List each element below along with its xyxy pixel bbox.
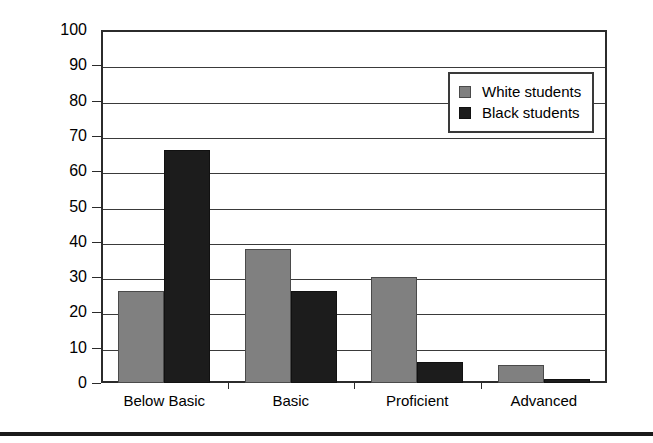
legend: White students Black students [448, 72, 594, 133]
y-axis-tick-label: 100 [60, 22, 87, 38]
legend-item: White students [459, 81, 581, 102]
y-axis-tick-label: 10 [69, 340, 87, 356]
bar-black-series-0 [164, 150, 210, 383]
legend-item-label: White students [482, 84, 581, 100]
y-axis: 0102030405060708090100 [0, 0, 101, 443]
x-axis-tick-label: Advanced [510, 392, 577, 410]
y-axis-tick-label: 70 [69, 128, 87, 144]
bar-white-series-1 [245, 249, 291, 383]
x-axis-tick-mark [354, 383, 355, 389]
y-axis-tick-mark [92, 277, 101, 278]
white-series-swatch-icon [459, 86, 471, 98]
y-axis-tick-mark [92, 242, 101, 243]
y-axis-tick-mark [92, 207, 101, 208]
bar-white-series-2 [371, 277, 417, 383]
bar-black-series-2 [417, 362, 463, 383]
y-axis-tick-mark [92, 383, 101, 384]
y-axis-tick-label: 80 [69, 93, 87, 109]
y-axis-tick-mark [92, 101, 101, 102]
y-axis-tick-mark [92, 348, 101, 349]
y-axis-tick-mark [92, 136, 101, 137]
x-axis-tick-mark [481, 383, 482, 389]
x-axis-tick-label: Below Basic [123, 392, 205, 410]
y-axis-tick-mark [92, 65, 101, 66]
y-axis-tick-label: 60 [69, 163, 87, 179]
y-axis-tick-label: 90 [69, 57, 87, 73]
bar-white-series-3 [498, 365, 544, 383]
y-axis-tick-label: 40 [69, 234, 87, 250]
bar-chart-figure: 0102030405060708090100 Below BasicBasicP… [0, 0, 653, 443]
bar-black-series-3 [544, 379, 590, 383]
legend-item: Black students [459, 102, 581, 123]
legend-item-label: Black students [482, 105, 580, 121]
y-axis-tick-mark [92, 312, 101, 313]
x-axis-tick-mark [228, 383, 229, 389]
y-axis-tick-label: 0 [78, 375, 87, 391]
bar-black-series-1 [291, 291, 337, 383]
y-axis-tick-mark [92, 171, 101, 172]
x-axis-tick-label: Basic [272, 392, 309, 410]
y-axis-tick-label: 20 [69, 304, 87, 320]
x-axis-tick-label: Proficient [386, 392, 449, 410]
y-axis-tick-label: 50 [69, 199, 87, 215]
bar-white-series-0 [118, 291, 164, 383]
y-axis-tick-label: 30 [69, 269, 87, 285]
bottom-divider [0, 432, 653, 436]
black-series-swatch-icon [459, 107, 471, 119]
